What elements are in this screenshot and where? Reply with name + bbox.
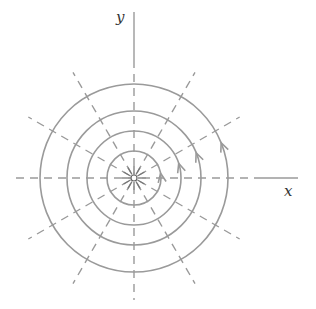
x-axis-label: x xyxy=(284,182,292,200)
origin-spoke xyxy=(124,172,131,176)
direction-arrows xyxy=(158,143,228,183)
radial-line xyxy=(73,183,131,283)
radial-line xyxy=(137,183,195,283)
origin-spoke xyxy=(136,168,140,175)
radial-line xyxy=(139,181,239,239)
axes xyxy=(16,12,298,300)
origin-point xyxy=(131,175,137,181)
radial-line xyxy=(73,72,131,172)
radial-line xyxy=(137,72,195,172)
origin-spoke xyxy=(137,180,144,184)
polar-diagram xyxy=(0,0,316,309)
radial-line xyxy=(28,181,128,239)
origin-spoke xyxy=(137,172,144,176)
origin-spoke xyxy=(128,181,132,188)
origin-spoke xyxy=(128,168,132,175)
origin-spoke xyxy=(124,180,131,184)
direction-arrow-icon xyxy=(178,163,186,173)
origin-spoke xyxy=(136,181,140,188)
radial-line xyxy=(28,117,128,175)
y-axis-label: y xyxy=(116,8,124,26)
